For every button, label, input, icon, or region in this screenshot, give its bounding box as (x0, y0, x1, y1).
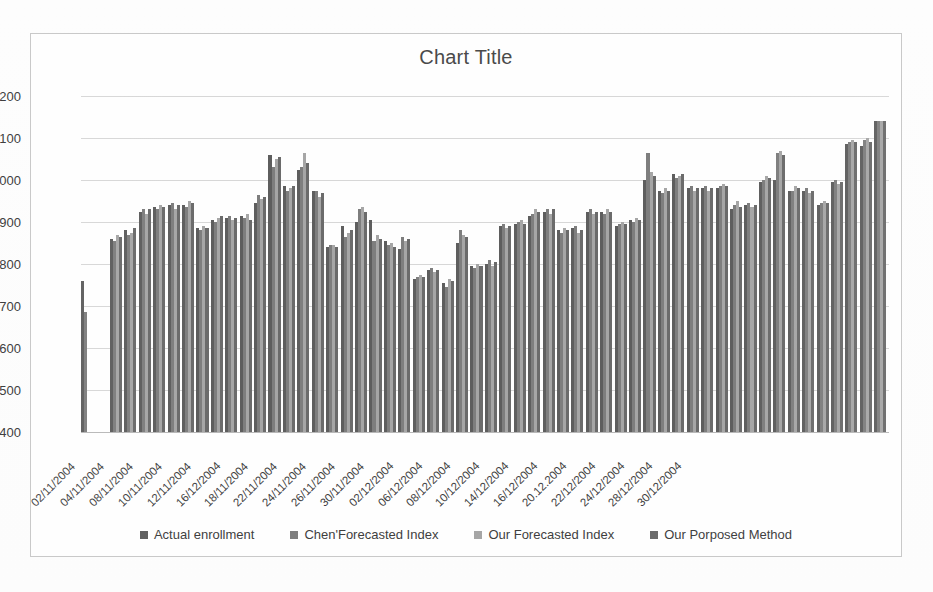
chart-title: Chart Title (31, 46, 901, 69)
bar-group (744, 96, 758, 432)
legend-label: Chen'Forecasted Index (304, 527, 438, 542)
bar (854, 142, 857, 432)
bar (782, 155, 785, 432)
bar (465, 237, 468, 432)
bar-group (600, 96, 614, 432)
bar (162, 207, 165, 432)
bar-group (240, 96, 254, 432)
bar-group (543, 96, 557, 432)
chart-page: Chart Title 6200610060005900580057005600… (0, 0, 933, 592)
x-axis-line (81, 432, 889, 433)
legend-label: Actual enrollment (154, 527, 254, 542)
bar (234, 218, 237, 432)
x-axis-tick-labels: 02/11/200404/11/200408/11/200410/11/2004… (81, 434, 889, 530)
legend-item[interactable]: Our Porposed Method (650, 527, 792, 542)
bar-group (586, 96, 600, 432)
y-axis-tick-label: 6000 (0, 173, 21, 188)
bar-group (355, 96, 369, 432)
bar (739, 207, 742, 432)
bar-group (845, 96, 859, 432)
legend-swatch-icon (650, 531, 658, 539)
bar-group (716, 96, 730, 432)
bar-group (730, 96, 744, 432)
bar (335, 247, 338, 432)
bar-group (874, 96, 888, 432)
bar-group (211, 96, 225, 432)
bar-group (398, 96, 412, 432)
bar-group (326, 96, 340, 432)
bar-group (499, 96, 513, 432)
bar-group (802, 96, 816, 432)
bar (364, 212, 367, 433)
bar (177, 205, 180, 432)
bar-group (470, 96, 484, 432)
bar (379, 239, 382, 432)
bar-group (312, 96, 326, 432)
bar-group (139, 96, 153, 432)
legend-item[interactable]: Chen'Forecasted Index (290, 527, 438, 542)
plot-area (81, 96, 889, 432)
bar (407, 239, 410, 432)
y-axis-tick-label: 5500 (0, 383, 21, 398)
bar (508, 226, 511, 432)
bar (768, 178, 771, 432)
bar (393, 247, 396, 432)
y-axis-tick-label: 6100 (0, 131, 21, 146)
bar-group (225, 96, 239, 432)
bar-group (413, 96, 427, 432)
y-axis-tick-label: 5400 (0, 425, 21, 440)
bar-group (283, 96, 297, 432)
y-axis-tick-label: 5600 (0, 341, 21, 356)
bar-group (384, 96, 398, 432)
bar (278, 157, 281, 432)
bar-group (860, 96, 874, 432)
bar-group (759, 96, 773, 432)
bar (595, 212, 598, 433)
bar-group (196, 96, 210, 432)
bar-group (701, 96, 715, 432)
bar (566, 230, 569, 432)
bar-group (514, 96, 528, 432)
bar (811, 191, 814, 433)
bar-series-container (81, 96, 889, 432)
bar (883, 121, 886, 432)
bar-group (658, 96, 672, 432)
bar (191, 203, 194, 432)
bar (552, 209, 555, 432)
bar-group (788, 96, 802, 432)
legend-swatch-icon (474, 531, 482, 539)
bar-group (643, 96, 657, 432)
bar (523, 224, 526, 432)
bar-group (124, 96, 138, 432)
legend-item[interactable]: Actual enrollment (140, 527, 254, 542)
bar (609, 212, 612, 433)
bar (133, 228, 136, 432)
bar (826, 203, 829, 432)
bar-group (557, 96, 571, 432)
bar (754, 205, 757, 432)
bar (350, 230, 353, 432)
bar (84, 312, 87, 432)
bar-group (571, 96, 585, 432)
bar-group (182, 96, 196, 432)
bar (580, 230, 583, 432)
legend-label: Our Forecasted Index (488, 527, 614, 542)
bar (148, 209, 151, 432)
legend-label: Our Porposed Method (664, 527, 792, 542)
y-axis-tick-labels: 620061006000590058005700560055005400 (0, 96, 27, 432)
bar-group (153, 96, 167, 432)
legend-swatch-icon (290, 531, 298, 539)
bar-group (254, 96, 268, 432)
bar-group (95, 96, 109, 432)
bar (840, 182, 843, 432)
bar-group (268, 96, 282, 432)
bar (710, 188, 713, 432)
legend-item[interactable]: Our Forecasted Index (474, 527, 614, 542)
bar (422, 277, 425, 432)
bar-group (427, 96, 441, 432)
chart-legend: Actual enrollmentChen'Forecasted IndexOu… (31, 527, 901, 542)
bar-group (629, 96, 643, 432)
bar-group (773, 96, 787, 432)
y-axis-tick-label: 5900 (0, 215, 21, 230)
bar-group (615, 96, 629, 432)
